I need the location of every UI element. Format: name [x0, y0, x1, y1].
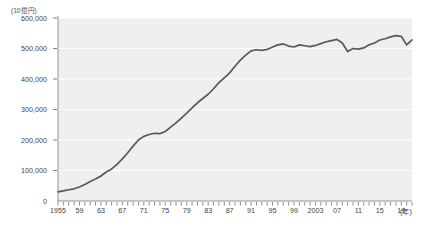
x-axis-tick-label: 83: [204, 206, 212, 215]
x-axis-tick-label: 87: [226, 206, 234, 215]
x-axis-tick-label: 2003: [307, 206, 323, 215]
x-axis-tick-label: 67: [118, 206, 126, 215]
x-axis-tick-label: 95: [269, 206, 277, 215]
chart-plot-area: [0, 0, 424, 233]
x-axis-tick-label: 99: [290, 206, 298, 215]
x-axis-unit-label: (年): [400, 206, 412, 216]
chart-container: (10億円) 0100,000200,000300,000400,000500,…: [0, 0, 424, 233]
x-axis-tick-label: 79: [183, 206, 191, 215]
x-axis-tick-label: 75: [161, 206, 169, 215]
x-axis-tick-label: 71: [140, 206, 148, 215]
x-axis-tick-label: 07: [333, 206, 341, 215]
x-axis-tick-label: 15: [376, 206, 384, 215]
x-axis-tick-label: 91: [247, 206, 255, 215]
x-axis-tick-label: 59: [75, 206, 83, 215]
x-axis-tick-label: 1955: [50, 206, 66, 215]
x-axis-tick-label: 11: [355, 206, 362, 215]
x-axis-tick-label: 63: [97, 206, 105, 215]
